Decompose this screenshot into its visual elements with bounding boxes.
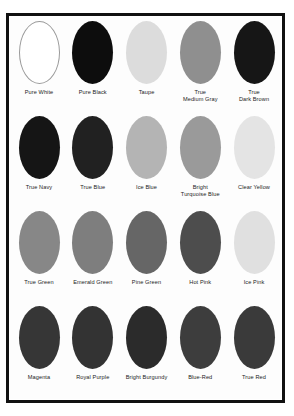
swatch-label: Hot Pink (189, 279, 211, 286)
swatch-label: True Dark Brown (239, 89, 269, 102)
swatch-ellipse (72, 211, 113, 274)
swatch-label: Taupe (139, 89, 155, 96)
swatch-ellipse (126, 211, 167, 274)
swatch-cell-true-dark-brown[interactable]: True Dark Brown (228, 21, 280, 102)
swatch-label: True Medium Gray (183, 89, 218, 102)
swatch-cell-emerald-green[interactable]: Emerald Green (67, 211, 119, 286)
swatch-label: Royal Purple (76, 374, 109, 381)
swatch-ellipse (72, 306, 113, 369)
swatch-row: Pure White Pure Black Taupe True Medium … (10, 21, 283, 116)
swatch-label: True Red (242, 374, 266, 381)
swatch-ellipse (126, 306, 167, 369)
swatch-label: True Green (24, 279, 53, 286)
swatch-row: True Green Emerald Green Pine Green Hot … (10, 211, 283, 306)
swatch-ellipse (19, 211, 60, 274)
swatch-cell-bright-turquoise-blue[interactable]: Bright Turquoise Blue (174, 116, 226, 197)
chart-frame-inner-border: Pure White Pure Black Taupe True Medium … (9, 16, 282, 400)
swatch-label: Pure White (25, 89, 54, 96)
chart-frame: Pure White Pure Black Taupe True Medium … (6, 13, 285, 403)
swatch-ellipse (234, 116, 275, 179)
swatch-label: Ice Blue (136, 184, 157, 191)
swatch-cell-ice-blue[interactable]: Ice Blue (121, 116, 173, 191)
swatch-label: Pine Green (132, 279, 161, 286)
swatch-ellipse (72, 116, 113, 179)
swatch-label: Blue-Red (188, 374, 212, 381)
swatch-cell-hot-pink[interactable]: Hot Pink (174, 211, 226, 286)
swatch-ellipse (180, 116, 221, 179)
swatch-label: Bright Turquoise Blue (181, 184, 220, 197)
swatch-ellipse (19, 306, 60, 369)
swatch-ellipse (234, 306, 275, 369)
swatch-ellipse (234, 211, 275, 274)
swatch-ellipse (180, 21, 221, 84)
swatch-ellipse (19, 116, 60, 179)
swatch-row: Magenta Royal Purple Bright Burgundy Blu… (10, 306, 283, 401)
swatch-cell-true-blue[interactable]: True Blue (67, 116, 119, 191)
swatch-cell-pure-white[interactable]: Pure White (13, 21, 65, 96)
swatch-cell-clear-yellow[interactable]: Clear Yellow (228, 116, 280, 191)
swatch-ellipse (180, 306, 221, 369)
swatch-cell-ice-pink[interactable]: Ice Pink (228, 211, 280, 286)
swatch-row: True Navy True Blue Ice Blue Bright Turq… (10, 116, 283, 211)
swatch-cell-bright-burgundy[interactable]: Bright Burgundy (121, 306, 173, 381)
swatch-cell-blue-red[interactable]: Blue-Red (174, 306, 226, 381)
swatch-cell-magenta[interactable]: Magenta (13, 306, 65, 381)
swatch-label: Pure Black (79, 89, 107, 96)
swatch-label: Ice Pink (244, 279, 265, 286)
swatch-grid: Pure White Pure Black Taupe True Medium … (10, 17, 283, 401)
swatch-ellipse (126, 116, 167, 179)
swatch-label: Emerald Green (73, 279, 112, 286)
swatch-cell-true-red[interactable]: True Red (228, 306, 280, 381)
swatch-cell-true-medium-gray[interactable]: True Medium Gray (174, 21, 226, 102)
swatch-label: Clear Yellow (238, 184, 270, 191)
swatch-chart-page: Pure White Pure Black Taupe True Medium … (0, 0, 294, 416)
swatch-cell-royal-purple[interactable]: Royal Purple (67, 306, 119, 381)
swatch-cell-taupe[interactable]: Taupe (121, 21, 173, 96)
swatch-cell-pure-black[interactable]: Pure Black (67, 21, 119, 96)
swatch-ellipse (180, 211, 221, 274)
swatch-label: True Blue (80, 184, 105, 191)
swatch-label: Bright Burgundy (126, 374, 168, 381)
swatch-ellipse (126, 21, 167, 84)
swatch-cell-pine-green[interactable]: Pine Green (121, 211, 173, 286)
swatch-ellipse (19, 21, 60, 84)
swatch-label: True Navy (26, 184, 53, 191)
swatch-ellipse (72, 21, 113, 84)
swatch-cell-true-green[interactable]: True Green (13, 211, 65, 286)
swatch-label: Magenta (28, 374, 50, 381)
swatch-cell-true-navy[interactable]: True Navy (13, 116, 65, 191)
swatch-ellipse (234, 21, 275, 84)
